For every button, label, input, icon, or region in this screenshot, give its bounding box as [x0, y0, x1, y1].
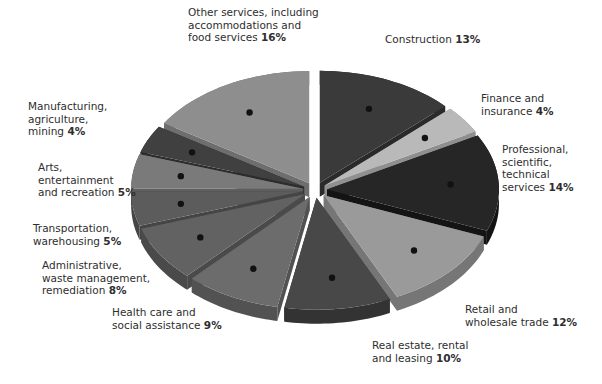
label-real-estate: Real estate, rentaland leasing 10% — [372, 339, 468, 364]
callout-dot — [246, 109, 252, 115]
label-construction: Construction 13% — [385, 33, 480, 46]
label-manufacturing: Manufacturing,agriculture,mining 4% — [28, 100, 107, 138]
callout-dot — [329, 275, 335, 281]
callout-dot — [250, 266, 256, 272]
label-health-care: Health care andsocial assistance 9% — [112, 306, 222, 331]
callout-dot — [411, 247, 417, 253]
callout-dot — [189, 149, 195, 155]
label-administrative: Administrative,waste management,remediat… — [42, 259, 150, 297]
label-arts: Arts,entertainmentand recreation 5% — [38, 161, 136, 199]
callout-dot — [422, 135, 428, 141]
label-finance: Finance andinsurance 4% — [481, 92, 554, 117]
callout-dot — [447, 181, 453, 187]
callout-dot — [366, 106, 372, 112]
label-other-services: Other services, includingaccommodations … — [188, 6, 319, 44]
callout-dot — [178, 201, 184, 207]
label-professional: Professional,scientific,technicalservice… — [502, 143, 574, 193]
callout-dot — [178, 173, 184, 179]
callout-dot — [197, 234, 203, 240]
label-transportation: Transportation,warehousing 5% — [33, 222, 121, 247]
label-retail: Retail andwholesale trade 12% — [465, 303, 577, 328]
